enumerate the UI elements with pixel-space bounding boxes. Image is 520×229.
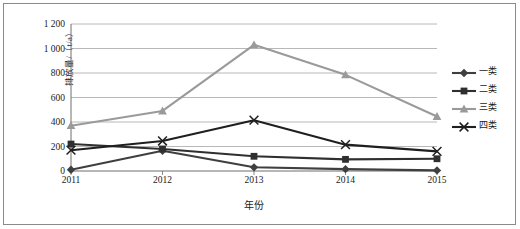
- data-point-1-2011: [67, 166, 75, 174]
- y-tick-label: 1 200: [27, 19, 65, 29]
- data-point-2-2015: [434, 155, 441, 162]
- data-point-3-2013: [250, 40, 259, 48]
- legend-item-4[interactable]: 四类: [452, 116, 512, 134]
- y-tick-label: 400: [27, 117, 65, 127]
- legend-marker-glyph: [461, 88, 468, 95]
- series-lines: [71, 45, 437, 171]
- x-tick-label-2014: 2014: [320, 174, 372, 186]
- series-line-3: [71, 45, 437, 126]
- legend-marker-diamond-icon: [452, 65, 476, 77]
- x-axis-title: 年份: [71, 200, 437, 212]
- legend-item-1[interactable]: 一类: [452, 62, 512, 80]
- plot-area: 排放量/（t/a） 02004006008001 0001 200 201120…: [71, 24, 437, 171]
- data-point-1-2014: [341, 165, 349, 173]
- data-point-2-2014: [342, 156, 349, 163]
- data-point-2-2013: [251, 153, 258, 160]
- x-axis-tick-labels: 20112012201320142015: [71, 174, 437, 190]
- x-tick-label-2015: 2015: [411, 174, 463, 186]
- data-point-2-2012: [159, 146, 166, 153]
- y-tick-label: 1 000: [27, 44, 65, 54]
- x-tick-label-2011: 2011: [45, 174, 97, 186]
- y-tick-label: 800: [27, 68, 65, 78]
- x-tick-label-2013: 2013: [228, 174, 280, 186]
- legend-label-3: 三类: [479, 101, 497, 113]
- legend-item-2[interactable]: 二类: [452, 80, 512, 98]
- legend-label-1: 一类: [479, 65, 497, 77]
- legend-item-3[interactable]: 三类: [452, 98, 512, 116]
- y-tick-label: 200: [27, 142, 65, 152]
- series-markers: [67, 40, 442, 174]
- y-tick-label: 600: [27, 93, 65, 103]
- y-axis-tick-labels: 02004006008001 0001 200: [27, 24, 65, 171]
- x-tick-label-2012: 2012: [137, 174, 189, 186]
- data-point-1-2013: [250, 163, 258, 171]
- plot-svg: [71, 24, 437, 171]
- emission-line-chart: 排放量/（t/a） 02004006008001 0001 200 201120…: [0, 0, 520, 229]
- legend-marker-cross-icon: [452, 119, 476, 131]
- data-point-2-2011: [68, 141, 75, 148]
- legend-marker-glyph: [460, 69, 468, 77]
- chart-legend: 一类二类三类四类: [452, 62, 512, 134]
- legend-marker-square-icon: [452, 83, 476, 95]
- legend-marker-triangle-icon: [452, 101, 476, 113]
- legend-label-2: 二类: [479, 83, 497, 95]
- legend-label-4: 四类: [479, 119, 497, 131]
